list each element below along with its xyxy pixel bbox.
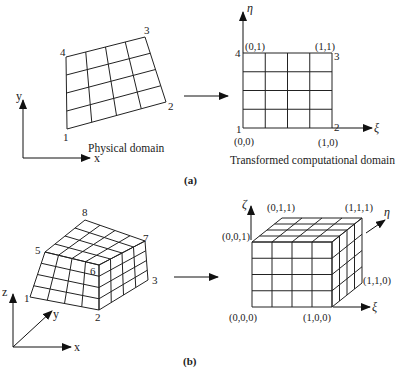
grid-line	[67, 102, 166, 129]
corner-label-8: 8	[82, 206, 88, 218]
corner-number-2: 2	[334, 121, 340, 133]
coord-0-0-1: (0,0,1)	[222, 231, 250, 243]
computational-grid-2d	[243, 53, 332, 128]
xi-axis-label-3d: ξ	[372, 300, 378, 314]
mesh-transformation-diagram: 4 3 2 1 y x Physical domain η ξ 4 3 2 1 …	[0, 0, 396, 374]
coord-1-0: (1,0)	[318, 137, 339, 149]
eta-axis-label: η	[247, 1, 253, 15]
corner-label-5: 5	[35, 244, 41, 256]
xi-axis-label: ξ	[374, 121, 380, 135]
zeta-axis-label: ζ	[242, 197, 248, 211]
coord-1-1: (1,1)	[315, 41, 336, 53]
part-a-computational-domain: η ξ 4 3 2 1 (0,1) (1,1) (0,0) (1,0) Tran…	[230, 1, 395, 167]
part-a-label: (a)	[184, 174, 197, 187]
coord-1-1-1: (1,1,1)	[345, 202, 373, 214]
computational-grid-3d	[252, 218, 362, 307]
xyz-axes: z x y	[2, 285, 80, 354]
coord-0-1-1: (0,1,1)	[267, 202, 295, 214]
corner-label-4: 4	[60, 46, 66, 58]
grid-line	[34, 286, 99, 299]
corner-label-6: 6	[90, 265, 96, 277]
corner-number-1: 1	[236, 123, 242, 135]
eta-axis-arrow-3d	[366, 220, 385, 233]
eta-axis-label-3d: η	[384, 205, 390, 219]
part-b-label: (b)	[183, 355, 197, 368]
coord-1-1-0: (1,1,0)	[363, 275, 391, 287]
physical-grid-2d	[66, 37, 166, 129]
coord-0-1: (0,1)	[245, 41, 266, 53]
corner-label-1: 1	[24, 292, 30, 304]
corner-label-2: 2	[95, 311, 101, 323]
corner-label-1: 1	[63, 131, 69, 143]
grid-line	[67, 70, 156, 94]
corner-number-4: 4	[235, 47, 241, 59]
coord-0-0: (0,0)	[234, 136, 255, 148]
y-axis-label-3d: y	[53, 307, 59, 321]
grid-line	[30, 297, 99, 310]
x-axis-label-3d: x	[74, 340, 80, 354]
corner-label-2: 2	[168, 100, 174, 112]
grid-line	[85, 220, 145, 241]
coord-1-0-0: (1,0,0)	[303, 312, 331, 324]
z-axis-label: z	[2, 285, 7, 299]
computational-domain-caption: Transformed computational domain	[230, 154, 395, 167]
grid-line	[66, 53, 150, 75]
physical-domain-caption: Physical domain	[88, 142, 165, 155]
corner-label-7: 7	[143, 232, 149, 244]
part-b-physical-domain: 8 7 5 6 3 1 2 z x y	[2, 206, 158, 354]
part-b-computational-domain: ζ η ξ (0,0,1) (0,1,1) (1,1,1) (1,1,0) (0…	[222, 197, 391, 324]
y-axis-arrow-3d	[13, 311, 52, 347]
physical-grid-3d	[30, 220, 148, 310]
part-a-physical-domain: 4 3 2 1 y x Physical domain	[16, 24, 174, 165]
grid-line	[66, 37, 145, 57]
coord-0-0-0: (0,0,0)	[229, 312, 257, 324]
y-axis-label: y	[16, 89, 22, 103]
corner-label-3: 3	[144, 24, 150, 36]
corner-label-3: 3	[152, 274, 158, 286]
